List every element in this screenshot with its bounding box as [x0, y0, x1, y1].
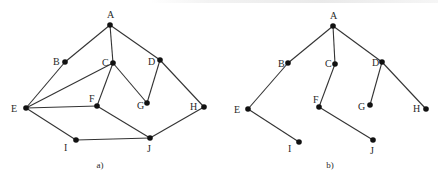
node-E: [23, 105, 29, 111]
edge-C-F: [319, 64, 335, 107]
node-label-G: G: [137, 100, 144, 111]
edge-E-I: [248, 109, 299, 142]
edge-I-J: [76, 138, 150, 140]
node-F: [316, 104, 322, 110]
node-B: [285, 60, 291, 66]
graph-a: ABCDEFGHIJa): [11, 9, 207, 170]
node-I: [296, 139, 302, 145]
node-H: [423, 106, 429, 112]
node-I: [73, 137, 79, 143]
node-C: [110, 60, 116, 66]
node-A: [107, 22, 113, 28]
node-G: [144, 100, 150, 106]
edge-B-E: [26, 62, 65, 108]
edge-A-C: [110, 25, 113, 63]
node-G: [367, 102, 373, 108]
spanning-tree-b: ABCDEFGHIJb): [234, 10, 429, 170]
edge-D-H: [382, 62, 426, 109]
node-B: [62, 59, 68, 65]
node-D: [157, 57, 163, 63]
node-A: [330, 23, 336, 29]
node-label-G: G: [358, 101, 365, 112]
edge-E-F: [26, 106, 97, 108]
node-label-A: A: [107, 9, 115, 20]
edge-C-E: [26, 63, 113, 108]
edge-E-I: [26, 108, 76, 140]
node-label-H: H: [413, 103, 420, 114]
node-label-B: B: [53, 56, 60, 67]
node-label-F: F: [89, 93, 95, 104]
node-label-I: I: [288, 143, 291, 154]
edge-A-C: [333, 26, 335, 64]
node-label-E: E: [11, 103, 17, 114]
node-label-I: I: [64, 142, 67, 153]
node-label-A: A: [330, 10, 338, 21]
edge-D-G: [370, 62, 382, 105]
edge-A-D: [110, 25, 160, 60]
node-D: [379, 59, 385, 65]
graph-diagram-canvas: ABCDEFGHIJa) ABCDEFGHIJb): [0, 0, 438, 181]
node-label-F: F: [313, 94, 319, 105]
node-label-D: D: [148, 56, 155, 67]
node-label-D: D: [372, 57, 379, 68]
node-C: [332, 61, 338, 67]
node-label-H: H: [190, 101, 197, 112]
node-label-J: J: [147, 143, 151, 154]
node-label-C: C: [102, 57, 109, 68]
caption-b: b): [326, 160, 334, 170]
node-J: [147, 135, 153, 141]
edge-B-E: [248, 63, 288, 109]
node-J: [370, 137, 376, 143]
caption-a: a): [97, 160, 104, 170]
node-F: [94, 103, 100, 109]
node-H: [201, 104, 207, 110]
edge-C-G: [113, 63, 147, 103]
node-label-B: B: [278, 58, 285, 69]
node-label-E: E: [234, 104, 240, 115]
node-label-C: C: [325, 58, 332, 69]
node-E: [245, 106, 251, 112]
node-label-J: J: [370, 145, 374, 156]
edge-D-H: [160, 60, 204, 107]
